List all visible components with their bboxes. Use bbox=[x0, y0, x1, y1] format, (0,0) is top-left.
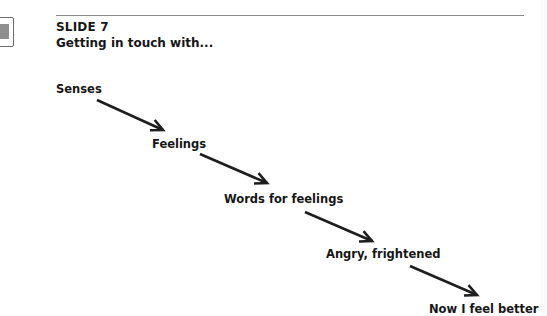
arrow-shaft-3 bbox=[305, 212, 372, 241]
arrow-shaft-4 bbox=[410, 266, 477, 295]
arrow-shaft-2 bbox=[200, 154, 267, 183]
arrow-shaft-1 bbox=[97, 100, 163, 130]
flow-arrows bbox=[0, 0, 547, 316]
